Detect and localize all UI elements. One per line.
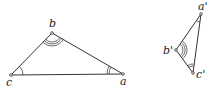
label-a-prime: a' <box>198 0 208 13</box>
triangle-a-prime-b-prime-c-prime: a' b' c' <box>163 0 208 81</box>
triangle-prime-edges <box>176 14 201 73</box>
vertex-b <box>51 32 54 35</box>
triangle-abc-edges <box>11 33 123 75</box>
label-c: c <box>6 76 12 89</box>
label-b: b <box>49 17 56 30</box>
label-b-prime: b' <box>163 44 173 57</box>
triangle-abc: b c a <box>6 17 127 89</box>
similar-triangles-diagram: b c a a' b' c' <box>0 0 213 89</box>
vertex-c-prime <box>192 72 195 75</box>
vertex-b-prime <box>175 49 178 52</box>
label-c-prime: c' <box>196 68 205 81</box>
vertex-a-prime <box>200 13 203 16</box>
label-a: a <box>120 75 127 88</box>
angle-c-mark <box>20 66 24 75</box>
